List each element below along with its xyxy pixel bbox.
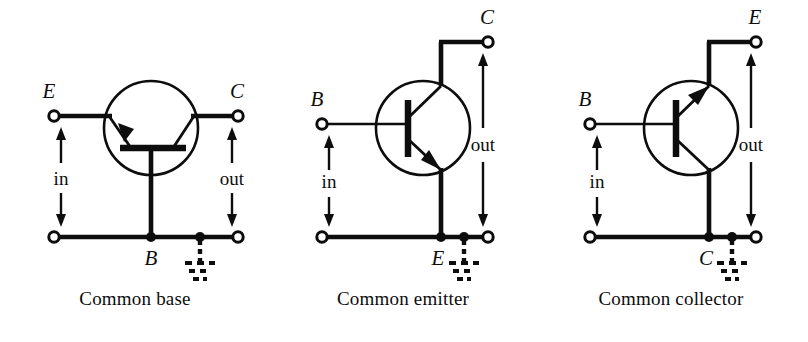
terminal-input-bottom[interactable] <box>317 232 327 242</box>
circuit-panel-common-emitter: B C E in out Common emitter <box>268 0 538 342</box>
terminal-output-top[interactable] <box>751 37 761 47</box>
label-terminal-common: C <box>699 246 714 270</box>
label-terminal-top-right: E <box>748 5 762 29</box>
input-arrow-head-up <box>324 135 334 148</box>
collector-diagonal-lead <box>676 139 709 170</box>
terminal-output-bottom[interactable] <box>483 232 493 242</box>
input-arrow-head-up <box>592 135 602 148</box>
label-output-signal: out <box>220 168 245 189</box>
label-input-signal: in <box>322 171 337 192</box>
output-arrow-head-up <box>746 53 756 66</box>
output-arrow-head-down <box>478 214 488 227</box>
common-base-schematic: E C B in out <box>0 0 270 290</box>
output-arrow-head-down <box>746 214 756 227</box>
terminal-input-top[interactable] <box>49 111 59 121</box>
terminal-output-top[interactable] <box>483 37 493 47</box>
input-arrow-head-down <box>56 214 66 227</box>
collector-diagonal-lead <box>173 116 194 148</box>
terminal-output-top[interactable] <box>233 111 243 121</box>
label-terminal-top-right: C <box>480 5 495 29</box>
circuit-panel-common-base: E C B in out Common base <box>0 0 270 342</box>
junction-dot-common <box>146 232 156 242</box>
caption-common-base: Common base <box>0 288 270 310</box>
input-arrow-head-up <box>56 127 66 140</box>
output-arrow-head-up <box>478 53 488 66</box>
label-input-signal: in <box>54 168 69 189</box>
collector-diagonal-lead <box>408 86 441 118</box>
terminal-output-bottom[interactable] <box>751 232 761 242</box>
junction-dot-common <box>436 232 446 242</box>
caption-common-collector: Common collector <box>536 288 806 310</box>
label-terminal-common: B <box>145 246 158 270</box>
junction-dot-common <box>704 232 714 242</box>
caption-common-emitter: Common emitter <box>268 288 538 310</box>
label-terminal-common: E <box>431 246 445 270</box>
label-terminal-top-left: E <box>42 79 56 103</box>
terminal-input-bottom[interactable] <box>49 232 59 242</box>
input-arrow-head-down <box>592 214 602 227</box>
terminal-output-bottom[interactable] <box>233 232 243 242</box>
terminal-input-bottom[interactable] <box>585 232 595 242</box>
output-arrow-head-up <box>227 127 237 140</box>
terminal-input-top[interactable] <box>317 119 327 129</box>
label-input-signal: in <box>590 171 605 192</box>
label-terminal-top-left: B <box>579 87 592 111</box>
label-terminal-top-left: B <box>311 87 324 111</box>
label-output-signal: out <box>739 134 764 155</box>
circuit-panel-common-collector: B E C in out Common collector <box>536 0 806 342</box>
transistor-configurations-figure: E C B in out Common base <box>0 0 808 342</box>
output-arrow-head-down <box>227 214 237 227</box>
label-terminal-top-right: C <box>230 79 245 103</box>
common-collector-schematic: B E C in out <box>536 0 806 290</box>
label-output-signal: out <box>471 134 496 155</box>
terminal-input-top[interactable] <box>585 119 595 129</box>
common-emitter-schematic: B C E in out <box>268 0 538 290</box>
input-arrow-head-down <box>324 214 334 227</box>
